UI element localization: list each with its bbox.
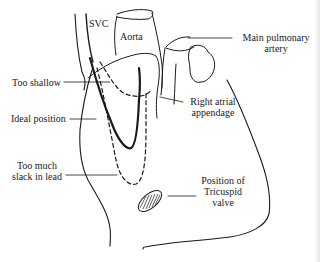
heart-lead-diagram: SVC Aorta Main pulmonary artery Too shal… (0, 0, 320, 262)
aorta-right-wall (152, 13, 162, 95)
left-atrial-appendage (188, 45, 214, 82)
lead-too-shallow (100, 62, 151, 96)
aorta-outline (117, 10, 153, 20)
label-svc: SVC (89, 18, 108, 29)
label-aorta: Aorta (120, 31, 143, 42)
tricuspid-valve (135, 187, 165, 216)
label-right-atrial-appendage: Right atrial appendage (182, 96, 244, 118)
aorta-left-wall (115, 16, 117, 55)
appendage-inner-line (174, 64, 176, 104)
pulmonary-artery-left (162, 48, 165, 88)
right-atrium-left-wall (80, 70, 111, 246)
svc-left-wall (75, 14, 85, 90)
label-ideal-position: Ideal position (11, 113, 66, 124)
label-too-shallow: Too shallow (12, 77, 61, 88)
page-edge-shadow (314, 0, 320, 262)
tricuspid-hatching (140, 194, 160, 209)
label-main-pulmonary-artery: Main pulmonary artery (236, 32, 316, 54)
label-tricuspid-valve: Position of Tricuspid valve (192, 175, 254, 208)
pulmonary-artery-top (166, 37, 190, 47)
leader-right-atrial-appendage (160, 97, 183, 102)
label-too-much-slack: Too much slack in lead (8, 160, 66, 182)
lead-too-much-slack (97, 68, 146, 184)
